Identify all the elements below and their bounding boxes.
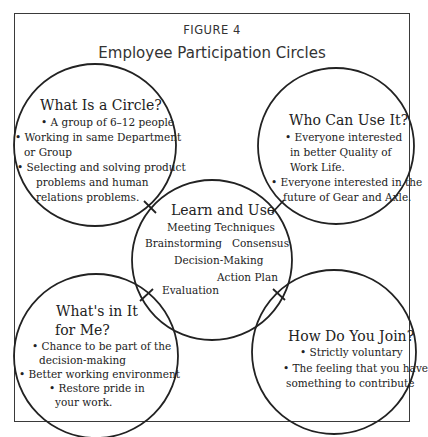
what-is-line-3: or Group [24,145,72,160]
learn-use-item-consensus: Consensus [232,236,289,251]
learn-use-item-action-plan: Action Plan [217,270,278,285]
what-is-line-2: • Working in same Department [15,130,181,145]
whats-in-line-1: • Chance to be part of the [32,339,171,354]
how-join-heading: How Do You Join? [288,328,414,344]
learn-use-heading: Learn and Use [171,202,275,218]
whats-in-line-2: decision-making [39,353,126,368]
who-can-heading: Who Can Use It? [289,112,408,128]
learn-use-item-meeting: Meeting Techniques [167,220,275,235]
how-join-line-2: • The feeling that you have [283,361,428,376]
how-join-line-1: • Strictly voluntary [300,345,403,360]
what-is-line-1: • A group of 6–12 people [41,115,174,130]
who-can-line-3: Work Life. [290,160,345,175]
whats-in-line-3: • Better working environment [19,367,180,382]
who-can-line-5: future of Gear and Axle. [283,190,411,205]
learn-use-item-decision: Decision-Making [174,253,263,268]
whats-in-heading-2: for Me? [55,322,110,338]
learn-use-item-evaluation: Evaluation [162,283,219,298]
whats-in-heading-1: What's in It [56,303,138,319]
what-is-line-6: relations problems. [36,190,139,205]
who-can-line-2: in better Quality of [290,145,391,160]
whats-in-line-4: • Restore pride in [49,381,145,396]
what-is-line-4: • Selecting and solving product [17,160,186,175]
how-join-line-3: something to contribute [286,376,414,391]
learn-use-item-brainstorming: Brainstorming [145,236,222,251]
who-can-line-1: • Everyone interested [285,130,402,145]
what-is-line-5: problems and human [36,175,149,190]
what-is-heading: What Is a Circle? [40,97,162,113]
who-can-line-4: • Everyone interested in the [271,175,422,190]
whats-in-line-5: your work. [55,395,112,410]
